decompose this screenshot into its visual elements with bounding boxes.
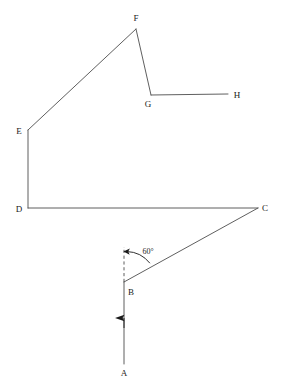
geometry-diagram: A B C D E F G H 60° xyxy=(0,0,282,389)
segment-f-to-g xyxy=(136,29,151,95)
angle-label-60: 60° xyxy=(142,248,153,256)
vertex-label-g: G xyxy=(145,100,152,109)
vertex-label-c: C xyxy=(262,204,268,213)
segment-g-to-h xyxy=(151,94,228,95)
segment-b-to-c xyxy=(124,208,258,282)
figure-canvas xyxy=(0,0,282,389)
segment-e-to-f xyxy=(28,29,136,130)
vertex-label-b: B xyxy=(128,288,134,297)
vertex-label-d: D xyxy=(16,205,23,214)
vertex-label-h: H xyxy=(234,91,241,100)
vertex-label-f: F xyxy=(133,14,138,23)
vertex-label-e: E xyxy=(16,127,22,136)
vertex-label-a: A xyxy=(121,369,128,378)
